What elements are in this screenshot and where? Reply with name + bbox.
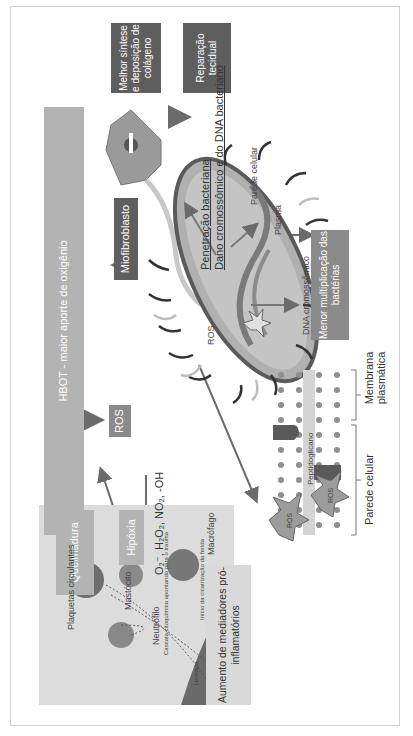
label-parede-celular: Parede celular (249, 147, 259, 205)
label-neutrofilo: Neutrófilo (151, 606, 161, 645)
menor-multiplicacao-label: Menor multiplicação das bactérias (318, 230, 342, 340)
label-parede-celular-membrane: Parede celular (363, 454, 375, 525)
label-plaquetas: Plaquetas circulantes (66, 544, 76, 630)
label-plasma: Plasma (273, 205, 283, 235)
rotated-diagram-canvas: HBOT - maior aporte de oxigênio Queimadu… (0, 0, 413, 736)
effect-penetracao: Penetração bacteriana (199, 159, 211, 270)
colageno-box: Melhor síntese e deposição de colágeno (111, 23, 161, 93)
label-peptidoglicano: Peptidoglicano (306, 433, 315, 485)
membrane-ros-bottom: ROS (327, 488, 334, 503)
mediadores-label: Aumento de mediadores pró-inflamatórios (216, 565, 241, 705)
label-inicio-cicatrizacao: Início da cicatrização da ferida (199, 539, 205, 620)
label-cascata: Cascata citoquímica apontando para o tra… (163, 532, 169, 655)
ros-box: ROS (109, 405, 131, 437)
miofibroblasto-box: Miofibroblasto (114, 198, 138, 280)
membrane-ros-top: ROS (286, 513, 293, 528)
label-mastocito: Mastócito (123, 571, 133, 610)
miofibroblasto-label: Miofibroblasto (119, 205, 132, 273)
hipoxia-label: Hipóxia (125, 519, 138, 556)
label-membrana-plasmatica: Membrana plasmática (363, 343, 387, 413)
mediadores-box: Aumento de mediadores pró-inflamatórios (206, 565, 251, 705)
diagram-frame: HBOT - maior aporte de oxigênio Queimadu… (10, 6, 400, 726)
hipoxia-box: Hipóxia (119, 510, 144, 565)
label-macrofago: Macrófago (206, 512, 216, 555)
menor-multiplicacao-box: Menor multiplicação das bactérias (311, 230, 349, 340)
hbot-label: HBOT - maior aporte de oxigênio (57, 240, 70, 401)
hbot-box: HBOT - maior aporte de oxigênio (44, 107, 84, 535)
ros-label: ROS (113, 409, 126, 433)
label-hemacia: Hemácia (193, 661, 199, 685)
label-dna-cromossomico: DNA cromossômico (301, 256, 311, 335)
bacterium-ros-label: ROS (206, 325, 216, 345)
colageno-label: Melhor síntese e deposição de colágeno (118, 23, 154, 93)
membrane-illustration (269, 370, 361, 541)
effect-dano-dna: Dano cromossômico e do DNA bacteriano (213, 65, 225, 270)
arrow-bacteria-membrane (199, 365, 256, 500)
